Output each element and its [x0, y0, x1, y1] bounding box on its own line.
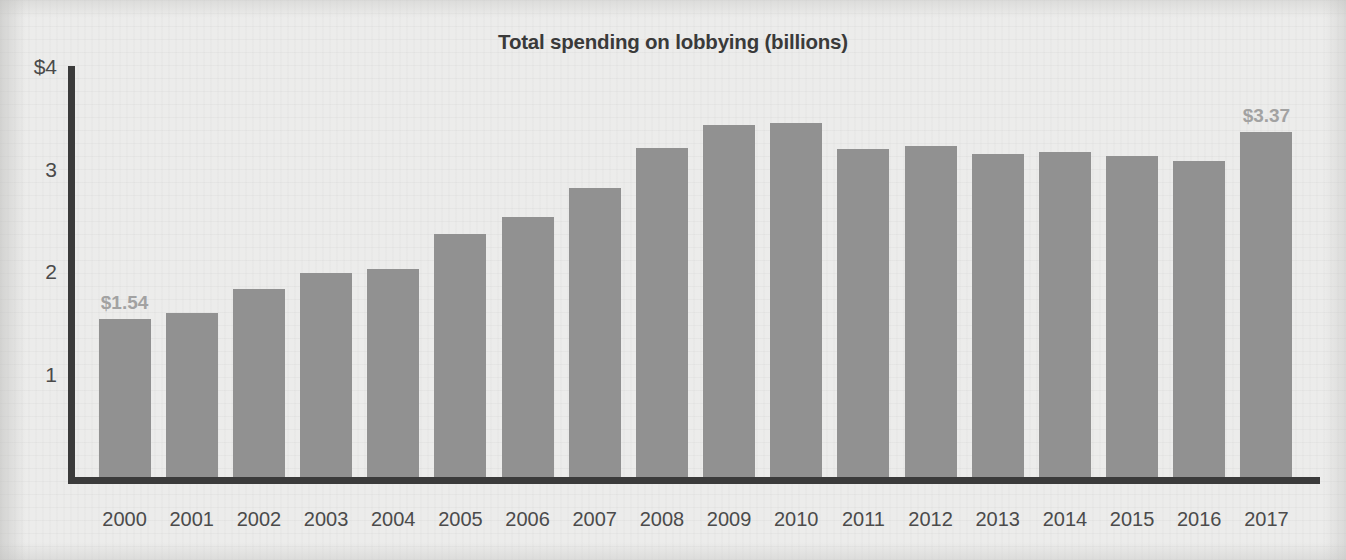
- bar-2011[interactable]: [837, 149, 889, 477]
- x-tick-label-2015: 2015: [1110, 508, 1155, 531]
- bar-group[interactable]: [233, 249, 285, 477]
- bar-group[interactable]: [502, 177, 554, 477]
- bar-2015[interactable]: [1106, 156, 1158, 477]
- y-axis-tick-labels: 123$4: [0, 66, 58, 484]
- bar-group[interactable]: [703, 85, 755, 477]
- x-tick-label-2010: 2010: [774, 508, 819, 531]
- y-tick-label-2: 2: [0, 260, 57, 284]
- bar-2012[interactable]: [905, 146, 957, 477]
- x-tick-label-2002: 2002: [237, 508, 282, 531]
- bar-2009[interactable]: [703, 125, 755, 477]
- bar-2003[interactable]: [300, 273, 352, 477]
- bar-2000[interactable]: [99, 319, 151, 477]
- bar-2010[interactable]: [770, 123, 822, 477]
- bar-2007[interactable]: [569, 188, 621, 477]
- bar-group[interactable]: [434, 194, 486, 477]
- bar-group[interactable]: [1173, 121, 1225, 477]
- bar-2006[interactable]: [502, 217, 554, 477]
- bar-value-label-2017: $3.37: [1243, 105, 1291, 127]
- bar-value-label-2000: $1.54: [101, 292, 149, 314]
- y-tick-label-1: 1: [0, 363, 57, 387]
- x-tick-label-2007: 2007: [573, 508, 618, 531]
- bar-group[interactable]: [636, 108, 688, 477]
- y-axis-line: [68, 66, 75, 484]
- bar-2017[interactable]: [1240, 132, 1292, 477]
- x-tick-label-2012: 2012: [908, 508, 953, 531]
- plot-area: 123$4 $1.54$3.37 20002001200220032004200…: [68, 66, 1320, 484]
- x-tick-label-2001: 2001: [170, 508, 215, 531]
- bar-group[interactable]: [569, 148, 621, 477]
- bar-2013[interactable]: [972, 154, 1024, 477]
- bar-2008[interactable]: [636, 148, 688, 477]
- x-tick-label-2006: 2006: [505, 508, 550, 531]
- bar-group[interactable]: $1.54: [99, 279, 151, 477]
- x-axis-tick-labels: 2000200120022003200420052006200720082009…: [68, 484, 1320, 544]
- x-tick-label-2014: 2014: [1043, 508, 1088, 531]
- bar-group[interactable]: [300, 233, 352, 477]
- x-tick-label-2003: 2003: [304, 508, 349, 531]
- bar-group[interactable]: $3.37: [1240, 92, 1292, 477]
- bar-group[interactable]: [837, 109, 889, 477]
- bar-group[interactable]: [770, 83, 822, 477]
- bar-group[interactable]: [972, 114, 1024, 477]
- x-tick-label-2009: 2009: [707, 508, 752, 531]
- bar-2002[interactable]: [233, 289, 285, 477]
- bar-group[interactable]: [166, 273, 218, 477]
- x-tick-label-2016: 2016: [1177, 508, 1222, 531]
- x-tick-label-2000: 2000: [102, 508, 147, 531]
- x-tick-label-2005: 2005: [438, 508, 483, 531]
- chart-title: Total spending on lobbying (billions): [0, 30, 1346, 54]
- bar-2014[interactable]: [1039, 152, 1091, 477]
- bar-2016[interactable]: [1173, 161, 1225, 477]
- lobbying-spending-bar-chart: Total spending on lobbying (billions) 12…: [0, 0, 1346, 560]
- bar-2005[interactable]: [434, 234, 486, 477]
- bar-group[interactable]: [367, 229, 419, 477]
- y-tick-label-3: 3: [0, 158, 57, 182]
- bar-group[interactable]: [1039, 112, 1091, 477]
- bar-group[interactable]: [905, 106, 957, 477]
- x-tick-label-2011: 2011: [842, 508, 885, 531]
- y-tick-label-4: $4: [0, 55, 57, 79]
- x-tick-label-2013: 2013: [976, 508, 1021, 531]
- x-tick-label-2004: 2004: [371, 508, 416, 531]
- bar-2001[interactable]: [166, 313, 218, 477]
- bar-2004[interactable]: [367, 269, 419, 477]
- x-tick-label-2008: 2008: [640, 508, 685, 531]
- x-tick-label-2017: 2017: [1244, 508, 1289, 531]
- x-axis-line: [68, 477, 1320, 484]
- bar-group[interactable]: [1106, 116, 1158, 477]
